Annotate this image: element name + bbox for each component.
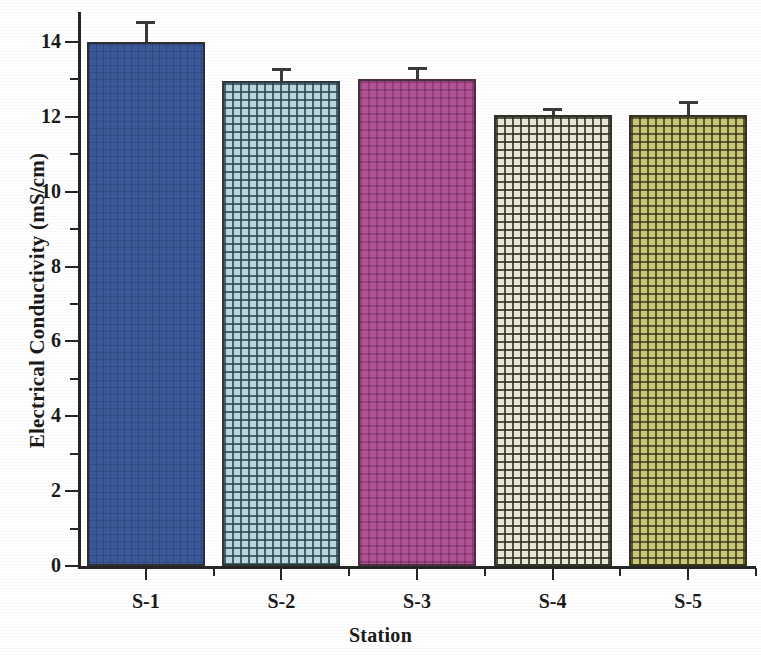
x-tick-minor [755, 568, 757, 576]
y-tick-minor [70, 528, 78, 530]
y-tick-label: 6 [15, 330, 61, 350]
x-tick-major [552, 568, 554, 580]
x-tick-minor [348, 568, 350, 576]
y-tick-minor [70, 153, 78, 155]
error-bar-cap [679, 101, 698, 104]
x-tick-label: S-3 [357, 590, 477, 613]
x-axis-title: Station [0, 624, 761, 647]
error-bar-cap [408, 67, 427, 70]
y-tick-minor [70, 228, 78, 230]
y-tick-minor [70, 78, 78, 80]
y-tick-label: 12 [15, 106, 61, 126]
bar-s-1 [87, 42, 205, 566]
y-tick-major [65, 565, 78, 567]
y-tick-label: 14 [15, 31, 61, 51]
y-tick-major [65, 266, 78, 268]
y-tick-major [65, 41, 78, 43]
bar-chart: Electrical Conductivity (mS/cm) 02468101… [0, 0, 761, 655]
y-tick-major [65, 490, 78, 492]
bar-s-5 [629, 115, 747, 566]
x-tick-major [416, 568, 418, 580]
x-tick-minor [619, 568, 621, 576]
y-tick-label: 2 [15, 480, 61, 500]
x-tick-major [280, 568, 282, 580]
x-tick-major [687, 568, 689, 580]
error-bar-cap [543, 108, 562, 111]
y-tick-major [65, 340, 78, 342]
bar-s-4 [494, 115, 612, 566]
y-tick-label: 0 [15, 555, 61, 575]
x-tick-label: S-4 [493, 590, 613, 613]
error-bar-cap [136, 21, 155, 24]
error-bar-cap [272, 68, 291, 71]
x-tick-label: S-1 [86, 590, 206, 613]
error-bar-stem [145, 21, 148, 42]
x-tick-label: S-5 [628, 590, 748, 613]
y-axis-line [78, 12, 81, 569]
bar-s-3 [358, 79, 476, 566]
bar-s-2 [222, 81, 340, 566]
y-tick-minor [70, 378, 78, 380]
y-tick-label: 10 [15, 181, 61, 201]
x-tick-minor [484, 568, 486, 576]
y-tick-minor [70, 453, 78, 455]
y-tick-minor [70, 303, 78, 305]
y-tick-major [65, 116, 78, 118]
plot-area: 02468101214 S-1S-2S-3S-4S-5 [78, 12, 756, 569]
y-tick-label: 8 [15, 256, 61, 276]
x-tick-minor [213, 568, 215, 576]
y-tick-major [65, 415, 78, 417]
y-tick-label: 4 [15, 405, 61, 425]
x-tick-major [145, 568, 147, 580]
y-tick-major [65, 191, 78, 193]
x-tick-label: S-2 [221, 590, 341, 613]
